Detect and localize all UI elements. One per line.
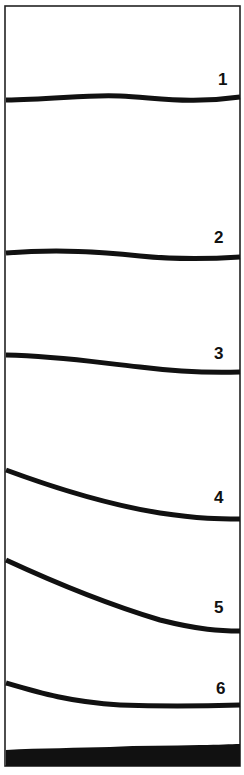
layer-boundary-line-5: [6, 560, 240, 631]
layered-column-diagram: [0, 0, 244, 775]
layer-boundary-line-3: [6, 355, 240, 372]
column-frame: [5, 6, 240, 766]
layer-label-3: 3: [214, 344, 223, 364]
layer-boundary-line-4: [6, 470, 240, 519]
layer-label-5: 5: [214, 598, 223, 618]
layer-boundary-line-1: [6, 96, 240, 101]
base-layer: [6, 744, 240, 766]
layer-boundary-line-6: [6, 683, 240, 706]
layer-label-1: 1: [218, 70, 227, 90]
layer-label-2: 2: [214, 228, 223, 248]
layer-label-4: 4: [214, 488, 223, 508]
layer-boundary-line-2: [6, 251, 240, 259]
layer-label-6: 6: [216, 679, 225, 699]
